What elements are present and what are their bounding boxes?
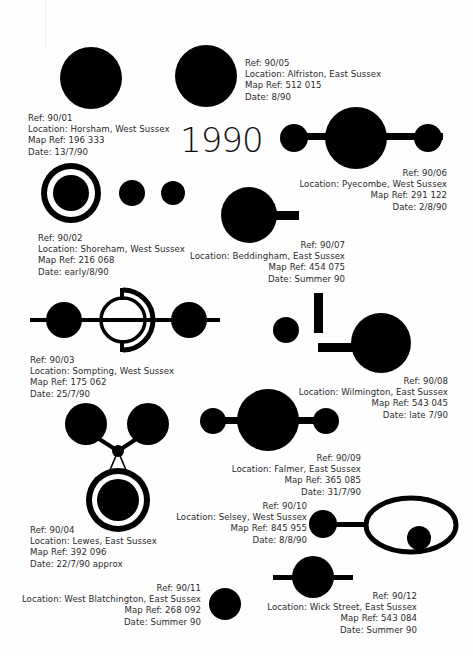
caption-location: Location: Wick Street, East Sussex (267, 602, 417, 613)
caption-location: Location: Lewes, East Sussex (30, 536, 157, 547)
caption-90-04: Ref: 90/04 Location: Lewes, East Sussex … (30, 525, 157, 570)
caption-location: Location: Falmer, East Sussex (232, 464, 361, 475)
caption-map-ref: Map Ref: 216 068 (38, 255, 185, 266)
formation-90-08-icon (273, 293, 411, 373)
caption-map-ref: Map Ref: 512 015 (245, 80, 381, 91)
caption-ref: Ref: 90/05 (245, 58, 381, 69)
formation-90-02-icon (41, 163, 185, 223)
caption-map-ref: Map Ref: 543 084 (267, 613, 417, 624)
caption-map-ref: Map Ref: 392 096 (30, 547, 157, 558)
caption-90-03: Ref: 90/03 Location: Sompting, West Suss… (30, 355, 174, 400)
caption-date: Date: Summer 90 (267, 625, 417, 636)
caption-location: Location: Wilmington, East Sussex (299, 387, 448, 398)
formation-90-01-icon (60, 47, 122, 109)
caption-location: Location: Selsey, West Sussex (176, 512, 307, 523)
caption-ref: Ref: 90/02 (38, 233, 185, 244)
caption-date: Date: 2/8/90 (299, 202, 447, 213)
caption-location: Location: Beddingham, East Sussex (190, 251, 345, 262)
caption-ref: Ref: 90/09 (232, 453, 361, 464)
formation-90-03-icon (30, 288, 220, 352)
caption-ref: Ref: 90/01 (28, 113, 170, 124)
formation-90-10-icon (309, 498, 456, 552)
caption-90-09: Ref: 90/09 Location: Falmer, East Sussex… (232, 453, 361, 498)
formation-90-11-icon (209, 588, 241, 620)
caption-date: Date: late 7/90 (299, 410, 448, 421)
caption-map-ref: Map Ref: 365 085 (232, 475, 361, 486)
caption-90-05: Ref: 90/05 Location: Alfriston, East Sus… (245, 58, 381, 103)
caption-ref: Ref: 90/03 (30, 355, 174, 366)
caption-date: Date: 13/7/90 (28, 147, 170, 158)
caption-location: Location: Alfriston, East Sussex (245, 69, 381, 80)
caption-ref: Ref: 90/04 (30, 525, 157, 536)
caption-location: Location: Sompting, West Sussex (30, 366, 174, 377)
caption-map-ref: Map Ref: 196 333 (28, 135, 170, 146)
caption-date: Date: early/8/90 (38, 267, 185, 278)
caption-location: Location: Horsham, West Sussex (28, 124, 170, 135)
caption-date: Date: 25/7/90 (30, 389, 174, 400)
formation-90-06-icon (280, 107, 443, 169)
caption-map-ref: Map Ref: 291 122 (299, 190, 447, 201)
caption-map-ref: Map Ref: 268 092 (22, 605, 201, 616)
caption-90-01: Ref: 90/01 Location: Horsham, West Susse… (28, 113, 170, 158)
caption-90-08: Ref: 90/08 Location: Wilmington, East Su… (299, 376, 448, 421)
caption-ref: Ref: 90/11 (22, 583, 201, 594)
caption-90-02: Ref: 90/02 Location: Shoreham, West Suss… (38, 233, 185, 278)
caption-date: Date: Summer 90 (22, 617, 201, 628)
caption-90-12: Ref: 90/12 Location: Wick Street, East S… (267, 591, 417, 636)
caption-date: Date: 8/8/90 (176, 535, 307, 546)
caption-ref: Ref: 90/12 (267, 591, 417, 602)
caption-map-ref: Map Ref: 543 045 (299, 398, 448, 409)
formation-90-04-icon (65, 403, 169, 532)
caption-date: Date: 22/7/90 approx (30, 559, 157, 570)
caption-date: Date: 31/7/90 (232, 487, 361, 498)
caption-location: Location: Pyecombe, West Sussex (299, 179, 447, 190)
caption-ref: Ref: 90/06 (299, 168, 447, 179)
caption-date: Date: 8/90 (245, 92, 381, 103)
caption-map-ref: Map Ref: 175 062 (30, 377, 174, 388)
caption-map-ref: Map Ref: 845 955 (176, 523, 307, 534)
formation-90-07-icon (221, 187, 299, 243)
page-title: 1990 (180, 120, 263, 160)
formation-90-05-icon (175, 45, 237, 107)
page: 1990 Ref: 90/01 Location: Horsham, West … (0, 0, 473, 656)
caption-ref: Ref: 90/08 (299, 376, 448, 387)
caption-location: Location: Shoreham, West Sussex (38, 244, 185, 255)
caption-location: Location: West Blatchington, East Sussex (22, 594, 201, 605)
caption-map-ref: Map Ref: 454 075 (190, 262, 345, 273)
caption-90-10: Ref: 90/10 Location: Selsey, West Sussex… (176, 501, 307, 546)
caption-ref: Ref: 90/10 (176, 501, 307, 512)
caption-ref: Ref: 90/07 (190, 240, 345, 251)
caption-90-11: Ref: 90/11 Location: West Blatchington, … (22, 583, 201, 628)
caption-90-07: Ref: 90/07 Location: Beddingham, East Su… (190, 240, 345, 285)
caption-date: Date: Summer 90 (190, 274, 345, 285)
caption-90-06: Ref: 90/06 Location: Pyecombe, West Suss… (299, 168, 447, 213)
